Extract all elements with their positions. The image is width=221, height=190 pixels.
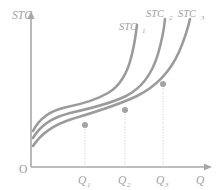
tangency-point-q3 bbox=[160, 81, 166, 87]
x-tick-label-q2: Q 2 bbox=[118, 174, 131, 189]
x-tick-label-q2-text: Q bbox=[118, 174, 127, 186]
x-tick-label-q3-text: Q bbox=[156, 174, 165, 186]
curve-label-stc-1-subscript: 1 bbox=[142, 27, 146, 35]
x-tick-label-q1-text: Q bbox=[78, 174, 87, 186]
tangency-point-q1 bbox=[82, 122, 88, 128]
y-axis-label: STC bbox=[12, 9, 32, 21]
x-axis-arrowhead bbox=[204, 163, 212, 170]
curve-stc-3 bbox=[33, 19, 190, 146]
x-tick-label-q1-subscript: 1 bbox=[87, 181, 91, 189]
curve-label-stc-2-subscript: 2 bbox=[169, 14, 173, 22]
curve-label-stc-3-subscript: 3 bbox=[200, 14, 205, 22]
curve-label-stc-2-text: STC bbox=[146, 8, 165, 19]
curve-label-stc-1: STC 1 bbox=[119, 21, 146, 35]
stc-cost-curve-chart: STC Q O STC 1 STC 2 STC 3 Q 1 Q 2 bbox=[0, 0, 221, 190]
curve-label-stc-1-text: STC bbox=[119, 21, 138, 32]
x-tick-label-q3: Q 3 bbox=[156, 174, 169, 189]
x-tick-label-q2-subscript: 2 bbox=[127, 181, 131, 189]
curve-label-stc-2: STC 2 bbox=[146, 8, 173, 22]
x-tick-label-q1: Q 1 bbox=[78, 174, 91, 189]
x-axis-label: Q bbox=[196, 174, 205, 186]
curve-stc-2 bbox=[33, 19, 165, 138]
x-tick-label-q3-subscript: 3 bbox=[164, 181, 169, 189]
chart-canvas: STC Q O STC 1 STC 2 STC 3 Q 1 Q 2 bbox=[0, 0, 221, 190]
curve-label-stc-3-text: STC bbox=[178, 8, 197, 19]
origin-label: O bbox=[19, 163, 27, 175]
tangency-point-q2 bbox=[122, 107, 128, 113]
curve-label-stc-3: STC 3 bbox=[178, 8, 205, 22]
